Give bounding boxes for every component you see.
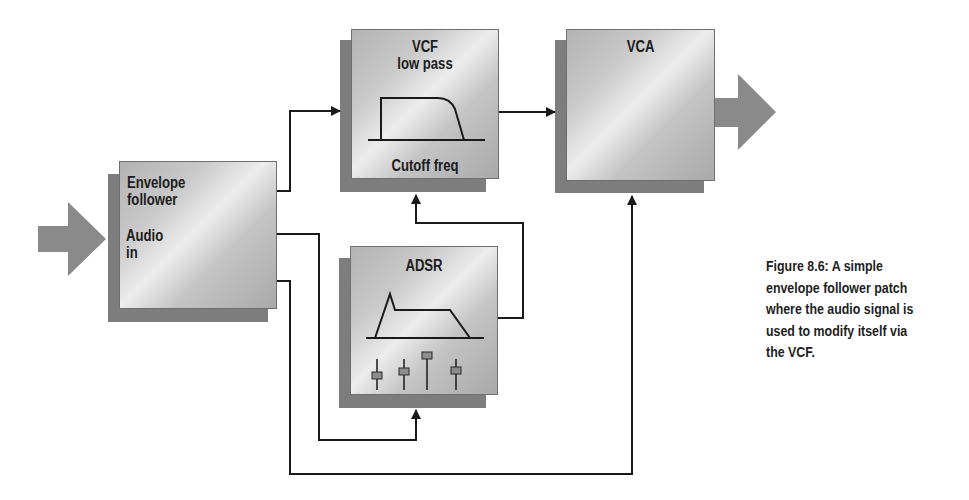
figure-caption: Figure 8.6: A simple envelope follower p… [766, 255, 966, 363]
wire-audio-out-to-vcf [277, 111, 340, 191]
caption-line: envelope follower patch [766, 277, 926, 299]
signal-output-arrow-icon [715, 74, 776, 150]
caption-line: where the audio signal is [766, 298, 926, 320]
wire-env-to-vca [277, 196, 632, 474]
patch-cables [0, 0, 969, 500]
caption-line: used to modify itself via [766, 320, 926, 342]
signal-input-arrow-icon [38, 202, 106, 276]
wire-adsr-to-cutoff [416, 195, 523, 318]
patch-diagram: Envelope follower Audio in Audio out Gat… [0, 0, 969, 500]
caption-line: Figure 8.6: A simple [766, 255, 926, 277]
wire-gate-to-adsr [277, 234, 416, 440]
caption-line: the VCF. [766, 341, 926, 363]
